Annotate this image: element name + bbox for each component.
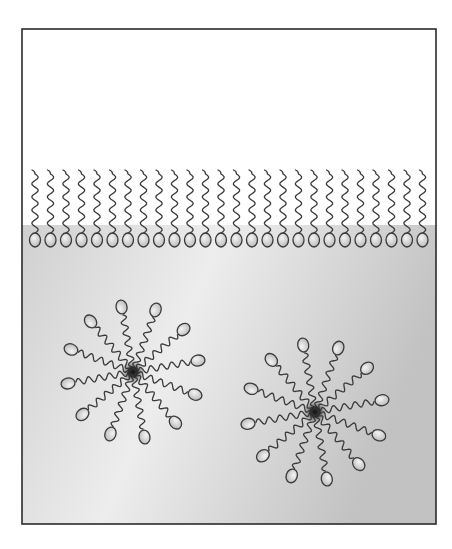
hydrophilic-head	[92, 233, 103, 247]
hydrophilic-head	[154, 233, 165, 247]
micelle-core	[121, 360, 145, 384]
hydrophilic-head	[247, 233, 258, 247]
hydrophilic-head	[324, 233, 335, 247]
hydrophilic-head	[355, 233, 366, 247]
hydrophilic-head	[386, 233, 397, 247]
micelle-core	[303, 400, 327, 424]
hydrophilic-head	[417, 233, 428, 247]
hydrophilic-head	[340, 233, 351, 247]
hydrophilic-head	[45, 233, 56, 247]
hydrophilic-head	[169, 233, 180, 247]
hydrophilic-head	[200, 233, 211, 247]
hydrophilic-head	[138, 233, 149, 247]
hydrophilic-head	[185, 233, 196, 247]
hydrophilic-head	[61, 233, 72, 247]
hydrophilic-head	[278, 233, 289, 247]
water-region	[22, 225, 436, 524]
hydrophilic-head	[309, 233, 320, 247]
hydrophilic-head	[76, 233, 87, 247]
hydrophilic-head	[262, 233, 273, 247]
hydrophilic-head	[30, 233, 41, 247]
hydrophilic-head	[231, 233, 242, 247]
hydrophilic-head	[216, 233, 227, 247]
hydrophilic-head	[107, 233, 118, 247]
surfactant-diagram	[0, 0, 452, 549]
hydrophilic-head	[293, 233, 304, 247]
hydrophilic-head	[402, 233, 413, 247]
hydrophilic-head	[371, 233, 382, 247]
hydrophilic-head	[123, 233, 134, 247]
